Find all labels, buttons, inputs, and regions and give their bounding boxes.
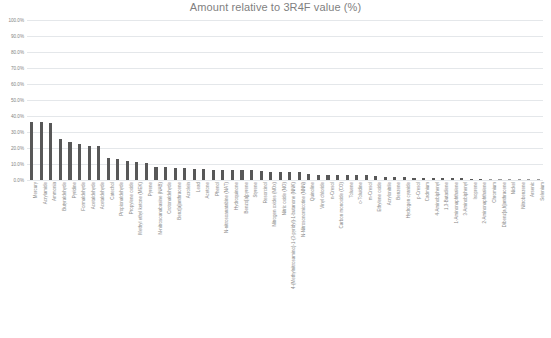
bar[interactable] <box>326 175 329 180</box>
bar[interactable] <box>518 179 521 180</box>
bar[interactable] <box>202 169 205 180</box>
x-axis-tick-label: Resorcinol <box>263 182 268 203</box>
bar[interactable] <box>78 144 81 180</box>
y-axis-tick-label: 70.0% <box>11 66 24 71</box>
bar[interactable] <box>212 170 215 180</box>
x-axis-tick-label: Vinyl chloride <box>320 182 325 209</box>
x-axis-tick-label: Catechol <box>110 182 115 200</box>
x-axis-tick-label: Phenol <box>215 182 220 196</box>
y-axis-tick-label: 30.0% <box>11 130 24 135</box>
bar[interactable] <box>135 162 138 180</box>
bar[interactable] <box>412 178 415 180</box>
bar[interactable] <box>221 170 224 180</box>
x-axis-tick-label: Acetaldehyde <box>91 182 96 209</box>
bar[interactable] <box>193 169 196 180</box>
bar[interactable] <box>97 146 100 180</box>
y-axis-tick-label: 10.0% <box>11 162 24 167</box>
bar[interactable] <box>269 172 272 180</box>
bar[interactable] <box>317 175 320 180</box>
bar[interactable] <box>374 176 377 180</box>
bar[interactable] <box>384 177 387 180</box>
bar[interactable] <box>107 158 110 180</box>
x-axis-tick-label: Hydrogen cyanide <box>406 182 411 218</box>
bar[interactable] <box>240 170 243 180</box>
bar[interactable] <box>527 179 530 180</box>
x-axis-tick-label: N-nitrosoanatabine (NAT) <box>224 182 229 233</box>
bar[interactable] <box>40 122 43 180</box>
bar[interactable] <box>49 123 52 180</box>
bar[interactable] <box>174 168 177 180</box>
bar[interactable] <box>537 179 540 180</box>
bar[interactable] <box>451 178 454 180</box>
plot-area <box>27 20 543 180</box>
bar[interactable] <box>307 174 310 180</box>
x-axis-tick-label: Chromium <box>492 182 497 203</box>
bar[interactable] <box>288 172 291 180</box>
bar[interactable] <box>250 170 253 180</box>
bar[interactable] <box>441 178 444 180</box>
x-axis-tick-label: Propionaldehyde <box>119 182 124 216</box>
bar[interactable] <box>145 163 148 180</box>
bar[interactable] <box>365 175 368 180</box>
y-axis-tick-label: 20.0% <box>11 146 24 151</box>
x-axis-tick-label: Formaldehyde <box>81 182 86 211</box>
bar[interactable] <box>88 146 91 180</box>
y-axis-tick-label: 0.0% <box>14 178 24 183</box>
x-axis-tick-label: 2-Aminonaphthalene <box>482 182 487 224</box>
x-axis-tick-label: Crotonaldehyde <box>167 182 172 214</box>
bar[interactable] <box>116 159 119 180</box>
bar[interactable] <box>432 178 435 180</box>
x-axis-tick-label: 4-Aminobiphenyl <box>435 182 440 216</box>
x-axis-tick-label: Pyridine <box>72 182 77 198</box>
x-axis-tick-label: Acetaldehyde <box>100 182 105 209</box>
x-axis-tick-label: Butyraldehyde <box>62 182 67 211</box>
x-axis-tick-label: Nickel <box>511 182 516 194</box>
bar[interactable] <box>298 172 301 180</box>
bar[interactable] <box>183 168 186 180</box>
bar[interactable] <box>279 172 282 180</box>
x-axis-tick-label: Toluene <box>349 182 354 198</box>
bar[interactable] <box>30 122 33 180</box>
y-axis-tick-label: 60.0% <box>11 82 24 87</box>
bar[interactable] <box>422 178 425 180</box>
x-axis-tick-label: Acrylonitrile <box>387 182 392 205</box>
y-axis-tick-label: 40.0% <box>11 114 24 119</box>
x-axis-tick-label: N-Nitrosonornicotine (NNN) <box>301 182 306 237</box>
x-axis-tick-label: m-Cresol <box>368 182 373 200</box>
chart-title: Amount relative to 3R4F value (%) <box>0 1 551 13</box>
bar[interactable] <box>59 139 62 180</box>
bar[interactable] <box>498 179 501 180</box>
bar[interactable] <box>403 177 406 180</box>
bar[interactable] <box>260 171 263 180</box>
bar[interactable] <box>355 175 358 180</box>
x-axis-tick-label: 1-Aminonaphthalene <box>454 182 459 224</box>
x-axis-tick-label: p-Cresol <box>416 182 421 199</box>
bar[interactable] <box>489 179 492 180</box>
bar[interactable] <box>336 175 339 180</box>
bar[interactable] <box>470 179 473 180</box>
y-axis-tick-label: 100.0% <box>8 18 24 23</box>
bar[interactable] <box>508 179 511 180</box>
x-axis-tick-label: Ammonia <box>52 182 57 201</box>
x-axis-tick-label: 1,3-Butadiene <box>444 182 449 210</box>
bar-chart: Amount relative to 3R4F value (%) 100.0%… <box>0 0 551 338</box>
x-axis-tick-label: Styrene <box>253 182 258 198</box>
bar[interactable] <box>68 142 71 180</box>
x-axis-tick-label: Hydroquinone <box>234 182 239 210</box>
bars-group <box>27 20 543 180</box>
bar[interactable] <box>231 170 234 180</box>
y-axis-tick-label: 50.0% <box>11 98 24 103</box>
bar[interactable] <box>346 175 349 180</box>
bar[interactable] <box>164 167 167 180</box>
bar[interactable] <box>393 177 396 180</box>
x-axis-tick-label: Methyl ethyl ketone (MEK) <box>138 182 143 235</box>
y-axis-tick-label: 90.0% <box>11 34 24 39</box>
x-axis-tick-label: Benzo[a]pyrene <box>244 182 249 214</box>
x-axis-tick-label: N-nitrosoanabasine (NAB) <box>158 182 163 235</box>
bar[interactable] <box>479 179 482 180</box>
x-axis-tick-label: Benz[a]anthracene <box>177 182 182 220</box>
bar[interactable] <box>460 178 463 180</box>
bar[interactable] <box>154 167 157 180</box>
x-axis-tick-label: o-Toluidine <box>358 182 363 204</box>
bar[interactable] <box>126 161 129 180</box>
